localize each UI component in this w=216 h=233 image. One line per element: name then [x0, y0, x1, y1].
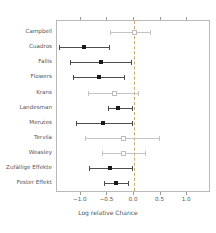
x-tick-label: 0.5	[155, 196, 164, 202]
ci-lower-cap	[89, 166, 90, 171]
x-tick-label: −0.5	[100, 196, 114, 202]
x-tick-bottom	[106, 192, 107, 195]
study-label: Tervila	[34, 134, 52, 140]
ci-upper-cap	[145, 151, 146, 156]
ci-lower-cap	[88, 91, 89, 96]
ci-upper-cap	[159, 136, 160, 141]
x-tick-bottom	[80, 192, 81, 195]
ci-lower-cap	[102, 151, 103, 156]
x-axis-title: Log relative Chance	[0, 209, 216, 216]
effect-estimate-marker	[112, 91, 117, 96]
ci-upper-cap	[132, 121, 133, 126]
effect-estimate-marker	[108, 166, 112, 170]
x-tick-label: 0.0	[129, 196, 138, 202]
x-tick-top	[133, 17, 134, 20]
effect-estimate-marker	[97, 75, 101, 79]
study-label: Flowers	[31, 73, 52, 79]
x-tick-label: −1.0	[73, 196, 87, 202]
effect-estimate-marker	[99, 60, 103, 64]
ci-lower-cap	[110, 30, 111, 35]
effect-estimate-marker	[114, 181, 118, 185]
x-tick-label: 1.0	[182, 196, 191, 202]
ci-upper-cap	[124, 75, 125, 80]
study-label: Fester Effekt	[17, 179, 52, 185]
ci-lower-cap	[76, 121, 77, 126]
ci-lower-cap	[85, 136, 86, 141]
x-tick-top	[186, 17, 187, 20]
study-label: Landesman	[20, 104, 52, 110]
study-label: Zufällige Effekte	[6, 164, 52, 170]
ci-lower-cap	[59, 45, 60, 50]
forest-plot-figure: CampbellCuadrosFallisFlowersKransLandesm…	[0, 0, 216, 233]
study-label: Cuadros	[29, 43, 52, 49]
x-tick-bottom	[133, 192, 134, 195]
effect-estimate-marker	[101, 121, 105, 125]
effect-estimate-marker	[82, 45, 86, 49]
x-tick-bottom	[160, 192, 161, 195]
study-label: Krans	[36, 89, 52, 95]
reference-zero-line	[134, 21, 135, 191]
confidence-interval-line	[110, 32, 151, 33]
effect-estimate-marker	[121, 136, 126, 141]
ci-upper-cap	[109, 45, 110, 50]
study-label: Weasley	[29, 149, 52, 155]
effect-estimate-marker	[121, 151, 126, 156]
ci-lower-cap	[108, 106, 109, 111]
x-tick-top	[80, 17, 81, 20]
ci-upper-cap	[138, 91, 139, 96]
study-label: Campbell	[26, 28, 52, 34]
study-label: Fallis	[38, 58, 52, 64]
x-tick-bottom	[186, 192, 187, 195]
study-label: Menzies	[29, 119, 52, 125]
ci-upper-cap	[131, 60, 132, 65]
ci-upper-cap	[150, 30, 151, 35]
ci-lower-cap	[104, 181, 105, 186]
plot-area	[56, 20, 210, 192]
effect-estimate-marker	[116, 106, 120, 110]
ci-upper-cap	[132, 166, 133, 171]
ci-lower-cap	[73, 75, 74, 80]
effect-estimate-marker	[132, 30, 137, 35]
ci-lower-cap	[70, 60, 71, 65]
x-tick-top	[106, 17, 107, 20]
x-tick-top	[160, 17, 161, 20]
ci-upper-cap	[128, 181, 129, 186]
ci-upper-cap	[132, 106, 133, 111]
